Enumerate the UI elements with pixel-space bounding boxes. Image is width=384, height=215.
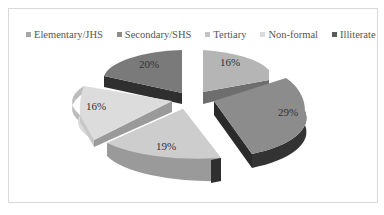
slice-label-secondary: 29% <box>278 106 298 118</box>
slice-label-illiterate: 20% <box>139 58 159 70</box>
slice-label-elementary: 16% <box>220 56 240 68</box>
slice-label-tertiary: 19% <box>156 140 176 152</box>
pie-chart: 20% 16% 19% 16% 29% <box>0 0 384 215</box>
slice-label-nonformal: 16% <box>86 100 106 112</box>
